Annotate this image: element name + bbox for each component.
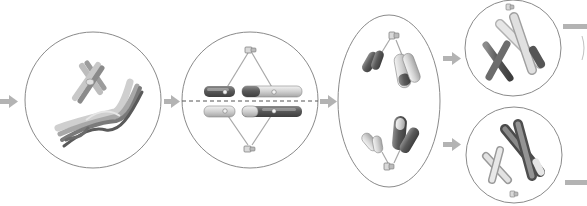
centrosome-top bbox=[389, 32, 399, 39]
cell-metaphase-i bbox=[182, 32, 318, 168]
cell-anaphase-i bbox=[338, 15, 440, 187]
arrow-stage1-to-stage2 bbox=[164, 95, 180, 108]
chromosome-upper-large bbox=[242, 86, 302, 97]
chromosome-upper-small bbox=[204, 86, 235, 97]
meiosis-diagram bbox=[0, 0, 587, 206]
arrow-stage3-to-bottom-cell bbox=[443, 138, 461, 151]
cell-daughter-top bbox=[465, 0, 561, 96]
arrow-stage2-to-stage3 bbox=[320, 95, 337, 108]
partial-cell-edge bbox=[582, 36, 584, 60]
cell-prophase-i bbox=[25, 32, 161, 168]
centrosome-bottom bbox=[244, 146, 255, 152]
arrow-incoming bbox=[0, 95, 18, 108]
centrosome-bottom bbox=[384, 163, 394, 170]
arrow-outgoing-bottom bbox=[565, 180, 587, 185]
arrow-outgoing-top bbox=[563, 24, 587, 29]
chromosome-lower-large bbox=[242, 106, 302, 117]
centrosome-top bbox=[245, 47, 256, 53]
centrosome bbox=[506, 4, 514, 10]
cell-daughter-bottom bbox=[466, 107, 562, 203]
centrosome bbox=[510, 191, 518, 197]
arrow-stage3-to-top-cell bbox=[443, 52, 461, 65]
chromosome-lower-small bbox=[204, 106, 235, 117]
